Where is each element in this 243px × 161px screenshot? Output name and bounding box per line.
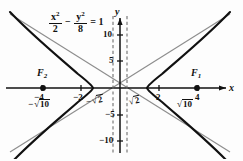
equation-y-term: y2 8: [74, 11, 87, 34]
focus-label-F1-subscript: 1: [198, 72, 202, 80]
equation-x-numerator: x2: [49, 11, 62, 24]
y-axis-arrow: [117, 18, 122, 25]
equation-y-numerator: y2: [74, 11, 87, 24]
hyperbola-figure: x2 2 − y2 8 = 1 x y −4 −2 2 4 10 5 −5 −1…: [0, 0, 243, 161]
focus-label-F1-letter: F: [191, 67, 198, 78]
x-axis-arrow: [219, 85, 226, 90]
y-tick-label-pos5: 5: [109, 56, 114, 65]
focus-dot-F1: [194, 85, 200, 91]
equation-x-term: x2 2: [49, 11, 62, 34]
equation-y-denominator: 8: [74, 24, 87, 35]
x-tick-label-pos2: 2: [156, 93, 161, 102]
plot-canvas: [0, 0, 243, 161]
equation-x-denominator: 2: [49, 24, 62, 35]
pos-sqrt10-radical: √10: [176, 99, 193, 109]
x-axis-label: x: [229, 83, 234, 93]
equation-label: x2 2 − y2 8 = 1: [48, 11, 103, 34]
y-axis-label: y: [115, 7, 119, 17]
focus-label-F2: F2: [37, 68, 47, 80]
x-tick-label-pos4: 4: [195, 93, 200, 102]
y-tick-label-neg5: −5: [105, 110, 115, 119]
x-label-neg-sqrt10: −√10: [28, 99, 50, 109]
focus-dot-F2: [40, 85, 46, 91]
focus-label-F2-letter: F: [37, 67, 44, 78]
y-tick-label-neg10: −10: [99, 136, 113, 145]
neg-sqrt10-radicand: 10: [39, 99, 50, 109]
y-tick-label-pos10: 10: [103, 30, 112, 39]
focus-label-F2-subscript: 2: [44, 72, 48, 80]
x-label-pos-sqrt10: √10: [176, 99, 193, 109]
x-tick-label-neg2: −2: [73, 93, 83, 102]
pos-sqrt10-radicand: 10: [182, 99, 193, 109]
equation-minus-sign: −: [65, 16, 71, 27]
neg-sqrt10-radical: √10: [33, 99, 50, 109]
focus-label-F1: F1: [191, 68, 201, 80]
equation-rhs: = 1: [90, 16, 103, 27]
